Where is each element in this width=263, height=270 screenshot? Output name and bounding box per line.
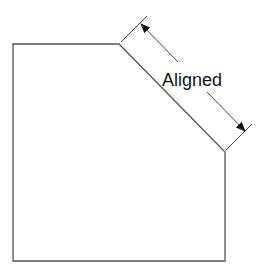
dimension-label: Aligned <box>162 70 222 90</box>
extension-line-start <box>121 16 147 42</box>
extension-line-end <box>226 124 252 150</box>
aligned-dimension-diagram: Aligned <box>0 0 263 270</box>
dimension-line-lower <box>207 92 245 131</box>
dimension-line-upper <box>141 24 178 62</box>
